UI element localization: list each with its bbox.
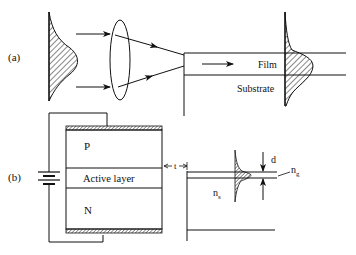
guide-index-label: ng xyxy=(291,164,300,178)
input-gaussian-profile xyxy=(49,12,78,101)
substrate-label: Substrate xyxy=(237,83,275,94)
active-layer-label: Active layer xyxy=(83,173,135,184)
p-region-label: P xyxy=(84,140,90,152)
panel-b: (b) P Active layer N t xyxy=(8,113,300,242)
panel-a-label: (a) xyxy=(8,51,21,64)
film-label: Film xyxy=(258,59,277,70)
thickness-label: d xyxy=(271,154,276,165)
panel-b-label: (b) xyxy=(8,171,21,184)
bottom-contact xyxy=(66,229,162,233)
lens-icon xyxy=(110,20,130,100)
converging-ray-bottom-seg xyxy=(118,76,152,87)
substrate-index-label: ns xyxy=(213,187,221,201)
guided-mode-profile xyxy=(285,12,313,106)
guide-index-leader xyxy=(278,172,290,176)
gap-dimension: t xyxy=(164,161,187,171)
top-wire xyxy=(49,113,107,167)
coupling-diagram: (a) Film Substrate (b) xyxy=(0,0,356,255)
bottom-wire xyxy=(49,185,103,242)
top-contact xyxy=(66,126,162,130)
gap-label: t xyxy=(174,161,177,171)
thin-guide-mode-profile xyxy=(235,150,251,202)
panel-a: (a) Film Substrate xyxy=(8,12,346,116)
battery-icon xyxy=(38,167,60,185)
converging-ray-top-seg xyxy=(115,35,157,47)
n-region-label: N xyxy=(84,204,92,216)
